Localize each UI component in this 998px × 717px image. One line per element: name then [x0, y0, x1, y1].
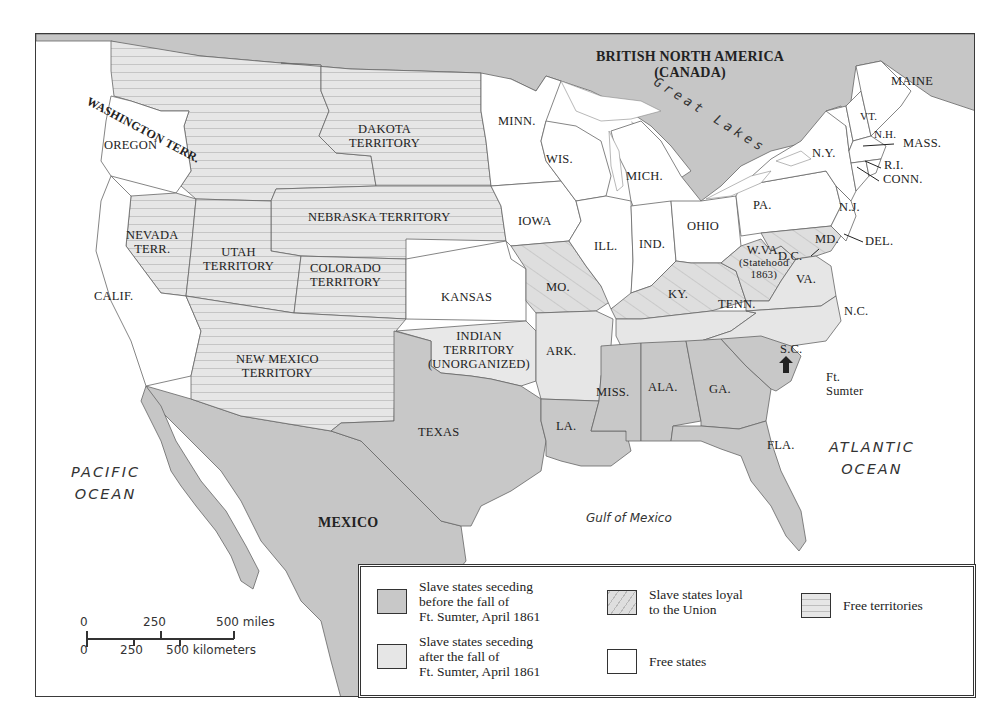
- label-vt: VT.: [860, 110, 877, 122]
- label-calif: CALIF.: [94, 289, 133, 303]
- label-indian-territory: INDIANTERRITORY(UNORGANIZED): [428, 329, 530, 371]
- label-ohio: OHIO: [687, 219, 719, 233]
- scale-miles-500: 500 miles: [216, 615, 275, 629]
- legend-item-loyal-slave: Slave states loyal to the Union: [607, 587, 743, 617]
- label-canada: BRITISH NORTH AMERICA(CANADA): [596, 49, 784, 81]
- label-new-mexico: NEW MEXICOTERRITORY: [236, 352, 319, 380]
- label-del: DEL.: [865, 234, 893, 248]
- legend-item-seceded-after: Slave states seceding after the fall of …: [377, 634, 540, 679]
- label-oregon: OREGON: [104, 138, 157, 152]
- scale-km-0: 0: [80, 643, 88, 657]
- swatch-loyal-slave: [607, 590, 637, 615]
- scale-miles-0: 0: [80, 615, 88, 629]
- label-ga: GA.: [709, 382, 731, 396]
- region-kansas: [406, 241, 526, 321]
- label-mich: MICH.: [626, 169, 663, 183]
- label-ark: ARK.: [546, 344, 576, 358]
- label-ill: ILL.: [594, 239, 617, 253]
- legend-item-free-states: Free states: [607, 649, 706, 674]
- label-pa: PA.: [753, 198, 772, 212]
- label-mexico: MEXICO: [318, 515, 378, 531]
- label-fla: FLA.: [767, 438, 795, 452]
- label-ri: R.I.: [884, 158, 904, 172]
- scale-km-250: 250: [120, 643, 143, 657]
- scale-miles-250: 250: [143, 615, 166, 629]
- label-maine: MAINE: [891, 74, 933, 88]
- legend-item-free-territory: Free territories: [801, 593, 923, 618]
- label-la: LA.: [556, 419, 576, 433]
- label-md: MD.: [815, 232, 839, 246]
- label-colorado: COLORADOTERRITORY: [310, 261, 381, 289]
- map-legend: Slave states seceding before the fall of…: [358, 564, 976, 698]
- label-nevada: NEVADATERR.: [126, 228, 178, 256]
- label-ny: N.Y.: [812, 146, 836, 160]
- label-dakota: DAKOTATERRITORY: [349, 122, 420, 150]
- swatch-free-territory: [801, 593, 831, 618]
- scale-km-500: 500 kilometers: [166, 643, 256, 657]
- label-tenn: TENN.: [718, 297, 755, 311]
- label-nc: N.C.: [844, 304, 868, 318]
- label-wis: WIS.: [546, 152, 573, 166]
- swatch-seceded-before: [377, 589, 407, 614]
- label-va: VA.: [796, 272, 816, 286]
- label-sc: S.C.: [780, 342, 802, 356]
- label-ky: KY.: [668, 287, 688, 301]
- label-atlantic-ocean: ATLANTICOCEAN: [829, 436, 915, 480]
- label-minn: MINN.: [498, 114, 535, 128]
- label-gulf-of-mexico: Gulf of Mexico: [586, 511, 672, 525]
- label-nj: N.J.: [839, 200, 860, 214]
- label-kansas: KANSAS: [441, 290, 492, 304]
- label-ft-sumter: Ft.Sumter: [826, 370, 863, 398]
- label-miss: MISS.: [596, 385, 629, 399]
- swatch-seceded-after: [377, 644, 407, 669]
- swatch-free-states: [607, 649, 637, 674]
- legend-item-seceded-before: Slave states seceding before the fall of…: [377, 579, 540, 624]
- label-texas: TEXAS: [418, 425, 459, 439]
- label-wva: W.VA.(Statehood1863): [739, 244, 789, 280]
- label-pacific-ocean: PACIFICOCEAN: [71, 461, 140, 505]
- label-ind: IND.: [639, 237, 665, 251]
- label-iowa: IOWA: [518, 214, 551, 228]
- label-nh: N.H.: [874, 128, 896, 140]
- label-nebraska: NEBRASKA TERRITORY: [308, 210, 450, 224]
- label-mo: MO.: [546, 280, 570, 294]
- label-mass: MASS.: [903, 136, 941, 150]
- label-ala: ALA.: [648, 380, 678, 394]
- label-conn: CONN.: [883, 172, 923, 186]
- scale-bar: 0 250 500 miles 0 250 500 kilometers: [80, 615, 280, 675]
- label-utah: UTAHTERRITORY: [203, 245, 274, 273]
